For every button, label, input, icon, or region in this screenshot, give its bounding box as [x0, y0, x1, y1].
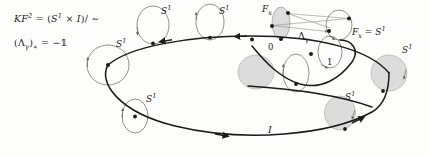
fiber-circle-interior-left [283, 54, 309, 92]
point-right-lower [343, 127, 347, 131]
endpoint-label-zero: 0 [268, 42, 273, 52]
monodromy-value: −𝟙 [52, 37, 67, 48]
point-inset-right-b [347, 17, 351, 21]
monodromy-line-outer2 [288, 14, 349, 19]
equation-line-2: (Λγ)∗ = −𝟙 [14, 37, 67, 51]
point-inset-right-a [327, 29, 331, 33]
equation-S-exponent: 1 [58, 12, 62, 20]
fiber-label-Fx-right-eq: = S [365, 27, 382, 37]
monodromy-map-lambda: Λ [298, 30, 305, 41]
equation-times: × [65, 13, 73, 24]
fiber-label-Fx-right: Fx = S1 [352, 25, 386, 40]
point-lower-left [133, 115, 137, 119]
point-interior-left [294, 82, 298, 86]
endpoint-label-one: 1 [327, 57, 332, 67]
fiber-label-Fx-right-sub: x [358, 32, 362, 40]
fiber-label-1: S1 [161, 4, 171, 16]
equation-F-exponent: 2 [28, 12, 32, 20]
fiber-label-Fx-left: Fx [262, 4, 272, 17]
fiber-label-5: S1 [345, 90, 355, 102]
fiber-label-2: S1 [219, 4, 229, 16]
point-inset-left-base [279, 37, 283, 41]
point-top-left-2 [208, 36, 212, 40]
fiber-label-6: S1 [402, 43, 412, 55]
monodromy-map-gamma: γ [305, 36, 309, 44]
fiber-label-Fx-left-sub: x [268, 9, 272, 17]
interval-label: I [268, 124, 272, 135]
fiber-label-2-exp: 1 [225, 4, 229, 12]
monodromy-open: (Λ [14, 37, 25, 48]
monodromy-equals: = [41, 37, 49, 48]
point-inset-left-bottom [270, 24, 274, 28]
fiber-label-Fx-right-exp: 1 [381, 25, 385, 33]
point-right-upper [381, 89, 385, 93]
fiber-circle-inset-right [326, 10, 352, 40]
fiber-label-6-exp: 1 [408, 43, 412, 51]
monodromy-map-label: Λγ [298, 30, 309, 44]
point-top-left-1 [151, 42, 155, 46]
fiber-label-5-exp: 1 [351, 90, 355, 98]
fiber-label-4-exp: 1 [152, 92, 156, 100]
monodromy-star: ∗ [33, 43, 38, 51]
fiber-label-3: S1 [116, 37, 126, 49]
equation-S: S [51, 13, 58, 24]
fiber-label-4: S1 [146, 92, 156, 104]
equation-close-quotient: )/ ∼ [81, 13, 100, 24]
equation-line-1: KF2 = (S1 × I)/ ∼ [14, 12, 99, 24]
point-zero [250, 38, 254, 42]
fiber-label-1-exp: 1 [167, 4, 171, 12]
fiber-label-3-exp: 1 [122, 37, 126, 45]
equation-equals: = [36, 13, 44, 24]
shaded-disk-zero [238, 55, 274, 89]
point-left-vertex [106, 63, 110, 67]
point-one [309, 52, 313, 56]
point-inset-left-top [286, 11, 290, 15]
